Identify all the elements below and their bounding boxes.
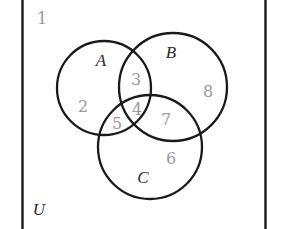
region-8-number: 8: [203, 82, 213, 101]
region-4-number: 4: [132, 100, 142, 119]
set-c-circle: [98, 95, 202, 199]
set-b-label: B: [166, 43, 177, 62]
set-a-label: A: [95, 51, 107, 70]
region-numbers: 12345678: [37, 9, 213, 168]
region-1-number: 1: [37, 9, 47, 28]
venn-diagram: 12345678 A B C U: [0, 0, 287, 229]
universe-label: U: [33, 200, 47, 219]
set-c-label: C: [137, 168, 149, 187]
region-2-number: 2: [78, 97, 88, 116]
region-7-number: 7: [161, 110, 171, 129]
region-6-number: 6: [166, 149, 176, 168]
region-5-number: 5: [112, 114, 122, 133]
region-3-number: 3: [131, 70, 141, 89]
